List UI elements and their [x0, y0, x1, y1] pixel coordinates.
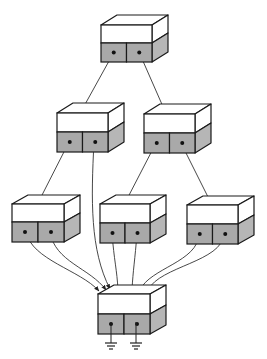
node-low-left [12, 195, 80, 242]
box-front-upper [12, 204, 64, 222]
box-front-upper [101, 25, 152, 43]
terminal-dot-right [137, 51, 141, 55]
terminal-dot-right [223, 232, 227, 236]
node-root [101, 15, 168, 62]
box-front-upper [187, 205, 238, 224]
nodes [12, 15, 254, 334]
terminal-dot-right [93, 140, 97, 144]
connections [26, 52, 224, 291]
box-front-upper [98, 294, 150, 314]
box-front-upper [144, 114, 195, 133]
terminal-dot-left [68, 140, 72, 144]
network-diagram [0, 0, 267, 359]
node-mid-right [144, 104, 211, 153]
terminal-dot-left [23, 230, 27, 234]
terminal-dot-right [136, 231, 140, 235]
box-front-upper [57, 113, 108, 132]
node-low-middle [100, 195, 166, 243]
terminal-dot-left [155, 141, 159, 145]
box-front-upper [100, 204, 150, 223]
terminal-dot-left [198, 232, 202, 236]
node-mid-left [57, 103, 124, 152]
terminal-dot-left [112, 51, 116, 55]
terminal-dot-right [180, 141, 184, 145]
diagram-canvas [0, 0, 267, 359]
node-ground-box [98, 285, 166, 334]
node-low-right [187, 196, 254, 244]
terminal-dot-left [111, 231, 115, 235]
terminal-dot-right [49, 230, 53, 234]
